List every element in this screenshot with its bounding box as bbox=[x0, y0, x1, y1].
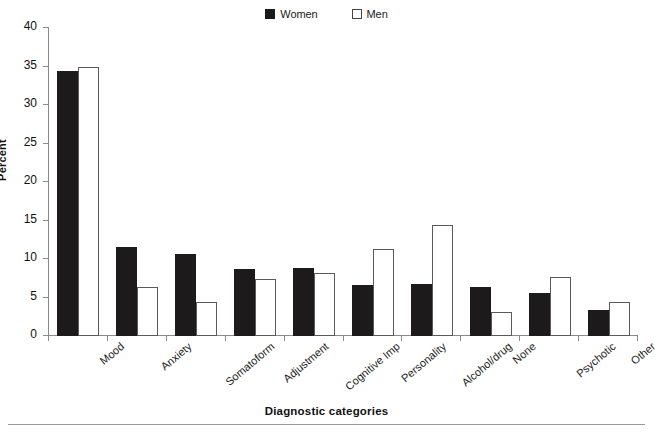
x-axis-category-label: Anxiety bbox=[159, 340, 194, 372]
x-axis-category-labels: MoodAnxietySomatoformAdjustmentCognitive… bbox=[48, 338, 638, 400]
bar-men-other bbox=[609, 302, 630, 336]
plot-area: 0510152025303540 bbox=[48, 28, 638, 336]
bar-men-adjustment bbox=[255, 279, 276, 336]
bar-women-cognitive-imp bbox=[293, 268, 314, 336]
y-axis-tick-label: 30 bbox=[24, 96, 37, 110]
x-axis-title: Diagnostic categories bbox=[0, 405, 653, 417]
legend-entry-men: Men bbox=[352, 8, 388, 20]
bar-men-somatoform bbox=[196, 302, 217, 336]
y-axis-tick-label: 35 bbox=[24, 58, 37, 72]
bar-women-other bbox=[588, 310, 609, 336]
bar-women-none bbox=[470, 287, 491, 336]
bar-men-personality bbox=[373, 249, 394, 336]
y-axis-tick-label: 25 bbox=[24, 135, 37, 149]
y-axis-tick-label: 10 bbox=[24, 250, 37, 264]
bar-men-mood bbox=[78, 67, 99, 337]
bar-women-psychotic bbox=[529, 293, 550, 336]
bar-men-psychotic bbox=[550, 277, 571, 336]
bars-layer bbox=[49, 28, 638, 336]
chart-legend: Women Men bbox=[0, 8, 653, 20]
bar-men-anxiety bbox=[137, 287, 158, 336]
x-axis-category-label: Cognitive Imp bbox=[343, 340, 402, 392]
y-axis-tick-label: 0 bbox=[30, 327, 37, 341]
y-axis-tick-label: 5 bbox=[30, 289, 37, 303]
y-axis-tick-label: 20 bbox=[24, 173, 37, 187]
x-axis-category-label: None bbox=[510, 340, 538, 366]
legend-label-women: Women bbox=[280, 8, 317, 20]
legend-entry-women: Women bbox=[265, 8, 317, 20]
filled-square-icon bbox=[265, 9, 275, 19]
bar-women-alcohol-drug bbox=[411, 284, 432, 336]
bar-men-cognitive-imp bbox=[314, 273, 335, 336]
hollow-square-icon bbox=[352, 9, 362, 19]
bar-men-alcohol-drug bbox=[432, 225, 453, 336]
x-axis-category-label: Psychotic bbox=[574, 340, 618, 379]
x-axis-category-label: Other bbox=[628, 340, 657, 367]
x-axis-category-label: Somatoform bbox=[223, 340, 277, 388]
bar-women-mood bbox=[57, 71, 78, 336]
legend-label-men: Men bbox=[367, 8, 388, 20]
x-axis-category-label: Alcohol/drug bbox=[459, 340, 514, 389]
x-axis-category-label: Personality bbox=[399, 340, 448, 384]
y-axis-tick-label: 15 bbox=[24, 212, 37, 226]
bar-women-somatoform bbox=[175, 254, 196, 336]
bar-men-none bbox=[491, 312, 512, 336]
bottom-divider bbox=[8, 424, 645, 425]
x-axis-category-label: Mood bbox=[98, 340, 127, 367]
y-axis-tick-label: 40 bbox=[24, 19, 37, 33]
bar-women-personality bbox=[352, 285, 373, 336]
x-axis-category-label: Adjustment bbox=[281, 340, 331, 385]
bar-women-adjustment bbox=[234, 269, 255, 336]
y-axis-title: Percent bbox=[0, 139, 8, 181]
bar-women-anxiety bbox=[116, 247, 137, 336]
